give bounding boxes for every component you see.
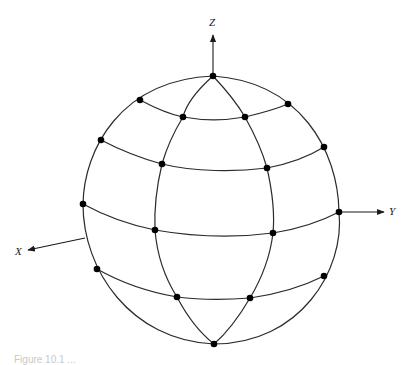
sphere-silhouette — [83, 76, 340, 344]
parallel-1 — [140, 100, 288, 120]
node-north-pole — [210, 73, 217, 80]
y-axis-label: Y — [389, 205, 395, 217]
node — [321, 144, 328, 151]
grid-nodes — [80, 73, 343, 348]
node — [247, 295, 254, 302]
parallels — [83, 100, 339, 299]
x-axis-arrow — [28, 238, 85, 250]
meridians — [155, 76, 274, 344]
parallel-3 — [83, 204, 339, 236]
node — [152, 227, 159, 234]
x-axis-label: X — [15, 245, 22, 257]
node — [180, 114, 187, 121]
z-axis-label: Z — [209, 16, 215, 28]
figure-caption: Figure 10.1 ... — [14, 354, 76, 365]
node — [174, 294, 181, 301]
node — [270, 230, 277, 237]
node — [94, 266, 101, 273]
node — [242, 114, 249, 121]
node — [80, 201, 87, 208]
node — [137, 97, 144, 104]
node — [336, 209, 343, 216]
node — [98, 137, 105, 144]
node — [264, 165, 271, 172]
node-south-pole — [211, 341, 218, 348]
parallel-2 — [101, 140, 324, 171]
node — [159, 161, 166, 168]
node — [321, 273, 328, 280]
node — [285, 101, 292, 108]
sphere-outline — [83, 76, 340, 344]
parallel-4 — [97, 269, 324, 299]
axes — [28, 35, 384, 250]
